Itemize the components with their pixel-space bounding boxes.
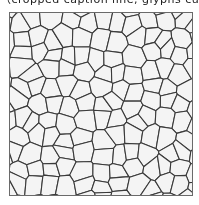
grain-cell	[93, 164, 110, 183]
grain-cell	[108, 177, 129, 192]
caption-text: （cropped caption line, glyphs cut off at…	[0, 0, 199, 6]
micrograph-image	[9, 12, 193, 196]
grain-cell	[25, 176, 43, 195]
grain-cell-network	[10, 13, 192, 195]
grain-cell	[95, 192, 112, 195]
grain-cell	[91, 148, 113, 165]
